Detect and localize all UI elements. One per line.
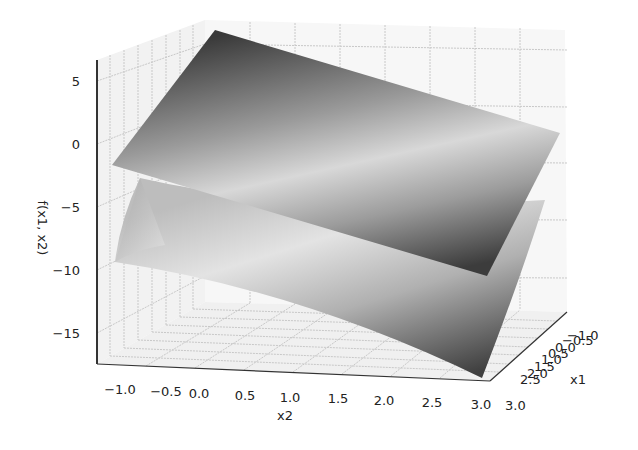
x2-tick: 1.5 xyxy=(328,391,349,406)
z-tick: −15 xyxy=(53,326,80,341)
x1-tick: 3.0 xyxy=(505,398,526,413)
z-tick: 0 xyxy=(72,137,80,152)
surface-plot: 5 0 −5 −10 −15 f(x1, x2) −1.0 −0.5 0.0 0… xyxy=(0,0,638,450)
x2-tick: 1.0 xyxy=(280,390,301,405)
x2-tick: −0.5 xyxy=(150,384,182,399)
z-axis-label: f(x1, x2) xyxy=(35,201,50,256)
x1-tick: 2.5 xyxy=(520,372,541,387)
x2-tick: 2.0 xyxy=(374,393,395,408)
z-tick: 5 xyxy=(72,74,80,89)
x2-tick: 0.0 xyxy=(189,386,210,401)
z-tick: −10 xyxy=(53,263,80,278)
x2-tick: 2.5 xyxy=(422,395,443,410)
z-tick: −5 xyxy=(61,200,80,215)
z-axis-ticks: 5 0 −5 −10 −15 xyxy=(53,74,80,341)
x1-axis-label: x1 xyxy=(570,372,586,387)
x2-axis-ticks: −1.0 −0.5 0.0 0.5 1.0 1.5 2.0 2.5 3.0 xyxy=(104,382,491,412)
x2-tick: 3.0 xyxy=(471,397,492,412)
x2-axis-label: x2 xyxy=(277,408,293,423)
x2-tick: 0.5 xyxy=(235,388,256,403)
x2-tick: −1.0 xyxy=(104,382,136,397)
